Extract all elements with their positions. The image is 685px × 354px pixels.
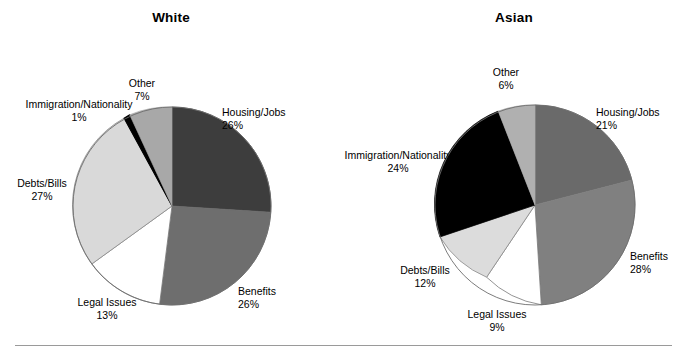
- slice-label-benefits: Benefits 26%: [238, 285, 276, 310]
- slice-label-legal-issues: Legal Issues 9%: [446, 308, 548, 333]
- slice-label-housing-jobs: Housing/Jobs 26%: [222, 106, 286, 131]
- pie-svg-white: [0, 0, 342, 340]
- pie-graphic-white: [0, 0, 342, 340]
- slice-label-other: Other 7%: [110, 77, 174, 102]
- slice-label-debts-bills: Debts/Bills 12%: [385, 264, 465, 289]
- figure-canvas: White Housing/Jobs 26%: [0, 0, 685, 354]
- footer-divider: [15, 345, 672, 346]
- slice-label-immigration-nationality: Immigration/Nationality 24%: [337, 149, 459, 174]
- slice-label-debts-bills: Debts/Bills 27%: [2, 177, 82, 202]
- slice-label-housing-jobs: Housing/Jobs 21%: [596, 106, 660, 131]
- pie-chart-asian: Asian Housing/Jobs 21%: [343, 0, 685, 340]
- slice-label-other: Other 6%: [474, 66, 538, 91]
- slice-label-benefits: Benefits 28%: [630, 250, 668, 275]
- slice-label-legal-issues: Legal Issues 13%: [56, 296, 158, 321]
- pie-chart-white: White Housing/Jobs 26%: [0, 0, 342, 340]
